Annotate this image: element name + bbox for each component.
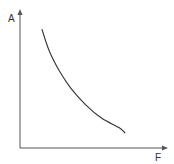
y-axis-label: A — [8, 14, 15, 24]
x-axis-label: F — [155, 153, 161, 163]
chart-canvas — [0, 0, 174, 164]
y-axis-arrow-icon — [18, 9, 23, 15]
data-curve — [42, 29, 125, 133]
x-axis-arrow-icon — [162, 146, 168, 151]
